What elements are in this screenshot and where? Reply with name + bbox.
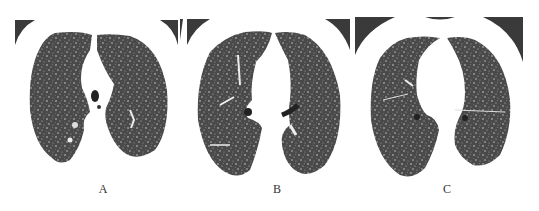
corner-artifact-left — [15, 20, 35, 45]
ct-panel-a: A — [0, 0, 180, 211]
left-lung-c — [447, 37, 510, 166]
trachea-a — [91, 90, 99, 102]
left-lung-a — [97, 34, 168, 156]
right-lung-b — [198, 31, 272, 175]
ct-image-a — [0, 0, 180, 211]
right-lung-a — [30, 32, 92, 163]
panel-label-c: C — [437, 182, 457, 197]
ct-panel-b: B — [180, 0, 355, 211]
panel-label-a: A — [93, 182, 113, 197]
right-lung-c — [371, 37, 440, 177]
ct-image-b — [180, 0, 355, 211]
panel-label-b: B — [267, 182, 287, 197]
corner-artifact-right — [160, 20, 178, 45]
ct-panel-c: C — [355, 0, 539, 211]
ct-image-c — [355, 0, 539, 211]
left-lung-b — [275, 32, 340, 174]
